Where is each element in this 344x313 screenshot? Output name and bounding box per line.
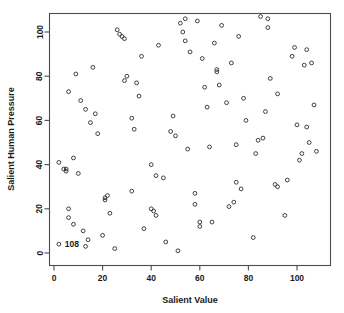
data-point (178, 21, 182, 25)
data-point (266, 26, 270, 30)
data-point (298, 158, 302, 162)
x-tick-label: 40 (146, 273, 156, 283)
data-point (67, 90, 71, 94)
data-point (225, 101, 229, 105)
data-point (217, 83, 221, 87)
y-tick-label: 40 (35, 160, 45, 170)
data-point (154, 214, 158, 218)
data-point (261, 136, 265, 140)
data-point (113, 247, 117, 251)
data-point (268, 77, 272, 81)
x-axis-title: Salient Value (162, 295, 218, 305)
data-point (93, 112, 97, 116)
data-point (67, 207, 71, 211)
data-point (76, 172, 80, 176)
x-axis-tick-labels: 020406080100 (52, 273, 305, 283)
data-point (72, 156, 76, 160)
data-point (312, 103, 316, 107)
y-axis-tick-labels: 020406080100 (35, 25, 45, 256)
data-point (96, 132, 100, 136)
data-point (140, 54, 144, 58)
data-point (193, 191, 197, 195)
data-point (89, 121, 93, 125)
data-point (169, 130, 173, 134)
data-point (290, 54, 294, 58)
data-point (276, 92, 280, 96)
data-point (188, 50, 192, 54)
data-point (264, 110, 268, 114)
data-point (152, 209, 156, 213)
x-tick-label: 60 (195, 273, 205, 283)
data-point (81, 229, 85, 233)
data-point (234, 180, 238, 184)
data-point (239, 187, 243, 191)
data-point (125, 74, 129, 78)
data-point (302, 63, 306, 67)
plot-canvas: 108 020406080100 020406080100 Salient Va… (0, 0, 344, 313)
data-point (307, 141, 311, 145)
data-point (295, 123, 299, 127)
y-tick-label: 60 (35, 115, 45, 125)
y-tick-label: 80 (35, 71, 45, 81)
data-point (176, 249, 180, 253)
data-point (310, 61, 314, 65)
data-point (227, 205, 231, 209)
data-point (220, 23, 224, 27)
data-point (120, 35, 124, 39)
data-point (300, 152, 304, 156)
data-point (234, 143, 238, 147)
x-tick-label: 80 (244, 273, 254, 283)
data-point (200, 57, 204, 61)
data-point (229, 61, 233, 65)
y-axis-title: Salient Human Pressure (6, 87, 16, 191)
data-point (203, 85, 207, 89)
data-point (186, 147, 190, 151)
data-point (237, 35, 241, 39)
data-point (164, 240, 168, 244)
data-point (57, 160, 61, 164)
point-annotations-group: 108 (65, 239, 79, 249)
data-point (154, 174, 158, 178)
data-point (115, 28, 119, 32)
data-point (101, 233, 105, 237)
data-point (210, 220, 214, 224)
data-point (84, 107, 88, 111)
data-point (137, 94, 141, 98)
data-point (74, 72, 78, 76)
data-point (251, 236, 255, 240)
data-point (132, 127, 136, 131)
data-point (198, 220, 202, 224)
data-point (130, 189, 134, 193)
data-point (72, 222, 76, 226)
data-point (208, 145, 212, 149)
data-point (157, 43, 161, 47)
scatter-plot-figure: 108 020406080100 020406080100 Salient Va… (0, 0, 344, 313)
data-points-group (57, 15, 318, 253)
data-point (183, 17, 187, 21)
data-point (293, 46, 297, 50)
data-point (195, 19, 199, 23)
data-point (123, 37, 127, 41)
y-tick-label: 100 (35, 25, 45, 39)
data-point (205, 105, 209, 109)
data-point (142, 227, 146, 231)
data-point (67, 216, 71, 220)
y-tick-label: 0 (35, 250, 45, 255)
plot-frame-border (50, 14, 331, 266)
data-point (254, 152, 258, 156)
data-point (149, 207, 153, 211)
data-point (84, 244, 88, 248)
data-point (181, 30, 185, 34)
data-point (315, 149, 319, 153)
tick-marks-group (45, 32, 298, 271)
data-point (212, 41, 216, 45)
data-point (161, 176, 165, 180)
data-point (244, 119, 248, 123)
data-point (108, 211, 112, 215)
data-point (266, 17, 270, 21)
data-point (193, 202, 197, 206)
data-point (149, 163, 153, 167)
data-point (283, 214, 287, 218)
data-point (285, 178, 289, 182)
data-point (232, 200, 236, 204)
